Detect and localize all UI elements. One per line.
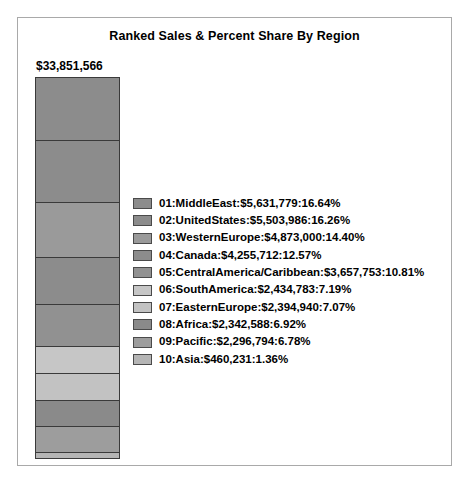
legend-swatch-icon-03 [133, 233, 152, 244]
legend-item-label: 04:Canada:$4,255,712:12.57% [159, 250, 321, 262]
legend-swatch-icon-10 [133, 354, 152, 365]
legend-item-label: 06:SouthAmerica:$2,434,783:7.19% [159, 284, 351, 296]
bar-segment-07 [36, 374, 119, 401]
legend-item-09: 09:Pacific:$2,296,794:6.78% [133, 333, 443, 350]
legend-swatch-icon-08 [133, 319, 152, 330]
legend-item-10: 10:Asia:$460,231:1.36% [133, 351, 443, 368]
legend-item-06: 06:SouthAmerica:$2,434,783:7.19% [133, 281, 443, 298]
legend-swatch-icon-09 [133, 337, 152, 348]
legend-swatch-icon-05 [133, 267, 152, 278]
legend-swatch-icon-07 [133, 302, 152, 313]
bar-segment-02 [36, 141, 119, 203]
legend-item-04: 04:Canada:$4,255,712:12.57% [133, 247, 443, 264]
bar-segment-10 [36, 453, 119, 458]
legend-item-01: 01:MiddleEast:$5,631,779:16.64% [133, 195, 443, 212]
legend-item-label: 09:Pacific:$2,296,794:6.78% [159, 336, 311, 348]
legend-swatch-icon-04 [133, 250, 152, 261]
legend-item-02: 02:UnitedStates:$5,503,986:16.26% [133, 212, 443, 229]
page-title: Ranked Sales & Percent Share By Region [18, 29, 451, 43]
bar-segment-09 [36, 427, 119, 453]
stacked-bar-chart [35, 77, 120, 459]
legend-item-label: 08:Africa:$2,342,588:6.92% [159, 319, 306, 331]
legend-item-label: 01:MiddleEast:$5,631,779:16.64% [159, 198, 341, 210]
chart-frame: Ranked Sales & Percent Share By Region $… [17, 17, 452, 466]
chart-legend: 01:MiddleEast:$5,631,779:16.64%02:United… [133, 195, 443, 368]
legend-item-label: 03:WesternEurope:$4,873,000:14.40% [159, 232, 365, 244]
bar-segment-08 [36, 401, 119, 427]
legend-item-07: 07:EasternEurope:$2,394,940:7.07% [133, 299, 443, 316]
legend-item-05: 05:CentralAmerica/Caribbean:$3,657,753:1… [133, 264, 443, 281]
bar-segment-04 [36, 258, 119, 306]
bar-segment-05 [36, 305, 119, 346]
legend-item-label: 02:UnitedStates:$5,503,986:16.26% [159, 215, 350, 227]
bar-segment-01 [36, 78, 119, 141]
legend-item-label: 05:CentralAmerica/Caribbean:$3,657,753:1… [159, 267, 424, 279]
bar-segment-06 [36, 347, 119, 374]
bar-total-label: $33,851,566 [36, 59, 103, 73]
legend-item-08: 08:Africa:$2,342,588:6.92% [133, 316, 443, 333]
legend-item-label: 07:EasternEurope:$2,394,940:7.07% [159, 302, 355, 314]
bar-segment-03 [36, 203, 119, 258]
legend-swatch-icon-02 [133, 215, 152, 226]
legend-item-03: 03:WesternEurope:$4,873,000:14.40% [133, 230, 443, 247]
legend-swatch-icon-01 [133, 198, 152, 209]
legend-item-label: 10:Asia:$460,231:1.36% [159, 354, 288, 366]
legend-swatch-icon-06 [133, 285, 152, 296]
